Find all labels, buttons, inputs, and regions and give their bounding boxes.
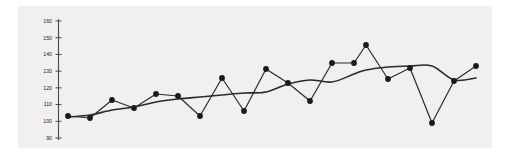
y-axis-tick-labels: 16015014013012011010090 — [43, 18, 52, 141]
data-point-marker — [241, 108, 247, 114]
data-point-marker — [197, 113, 203, 119]
data-point-marker — [263, 66, 269, 72]
y-axis-tick-label: 100 — [43, 118, 52, 124]
data-point-marker — [109, 97, 115, 103]
data-point-marker — [407, 65, 413, 71]
chart-canvas: 16015014013012011010090 — [0, 0, 509, 161]
y-axis-tick-label: 160 — [43, 18, 52, 24]
data-point-marker — [429, 120, 435, 126]
data-point-marker — [285, 80, 291, 86]
y-axis: 16015014013012011010090 — [43, 18, 61, 141]
data-point-marker — [87, 115, 93, 121]
data-point-marker — [473, 63, 479, 69]
chart-figure: 16015014013012011010090 — [0, 0, 509, 161]
y-axis-tick-label: 140 — [43, 51, 52, 57]
observed-line — [68, 45, 476, 123]
y-axis-tick-label: 150 — [43, 35, 52, 41]
data-point-marker — [219, 75, 225, 81]
data-point-marker — [363, 42, 369, 48]
data-point-marker — [329, 60, 335, 66]
y-axis-tick-label: 130 — [43, 68, 52, 74]
data-point-marker — [65, 113, 71, 119]
data-point-marker — [451, 78, 457, 84]
data-point-marker — [175, 93, 181, 99]
data-point-marker — [351, 60, 357, 66]
y-axis-tick-label: 110 — [44, 101, 52, 107]
data-point-marker — [131, 105, 137, 111]
y-axis-tick-label: 120 — [43, 85, 52, 91]
data-point-marker — [307, 98, 313, 104]
series-observed — [65, 42, 479, 126]
data-point-marker — [153, 91, 159, 97]
data-point-marker — [385, 76, 391, 82]
y-axis-tick-label: 90 — [46, 135, 52, 141]
